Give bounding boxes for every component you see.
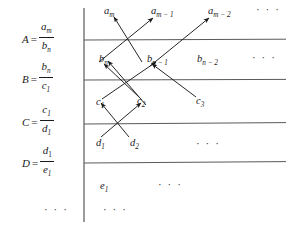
term-c-2: c2	[137, 95, 145, 109]
row-a-ellipsis: · · ·	[256, 3, 281, 15]
row-d-ellipsis: · · ·	[196, 137, 221, 149]
term-c-1: c1	[96, 96, 104, 110]
term-c-3: c3	[196, 95, 204, 109]
term-e-1: e1	[100, 180, 108, 194]
term-b-n: bn	[99, 53, 108, 67]
row-e-ellipsis: · · ·	[158, 178, 183, 190]
row-b-ellipsis: · · ·	[252, 51, 277, 63]
term-grid: am am − 1 am − 2 · · · bn bn − 1 bn − 2 …	[0, 0, 288, 229]
term-b-n-1: bn − 1	[147, 53, 168, 67]
term-d-2: d2	[130, 137, 139, 151]
term-d-1: d1	[96, 137, 105, 151]
term-a-m-1: am − 1	[151, 5, 173, 19]
term-a-m: am	[104, 5, 114, 19]
term-a-m-2: am − 2	[208, 5, 230, 19]
continued-fraction-diagram: A = am bn B = bn c1 C = c1 d1	[0, 0, 288, 229]
bottom-row-ellipsis: · · ·	[103, 203, 128, 215]
term-b-n-2: bn − 2	[197, 53, 218, 67]
